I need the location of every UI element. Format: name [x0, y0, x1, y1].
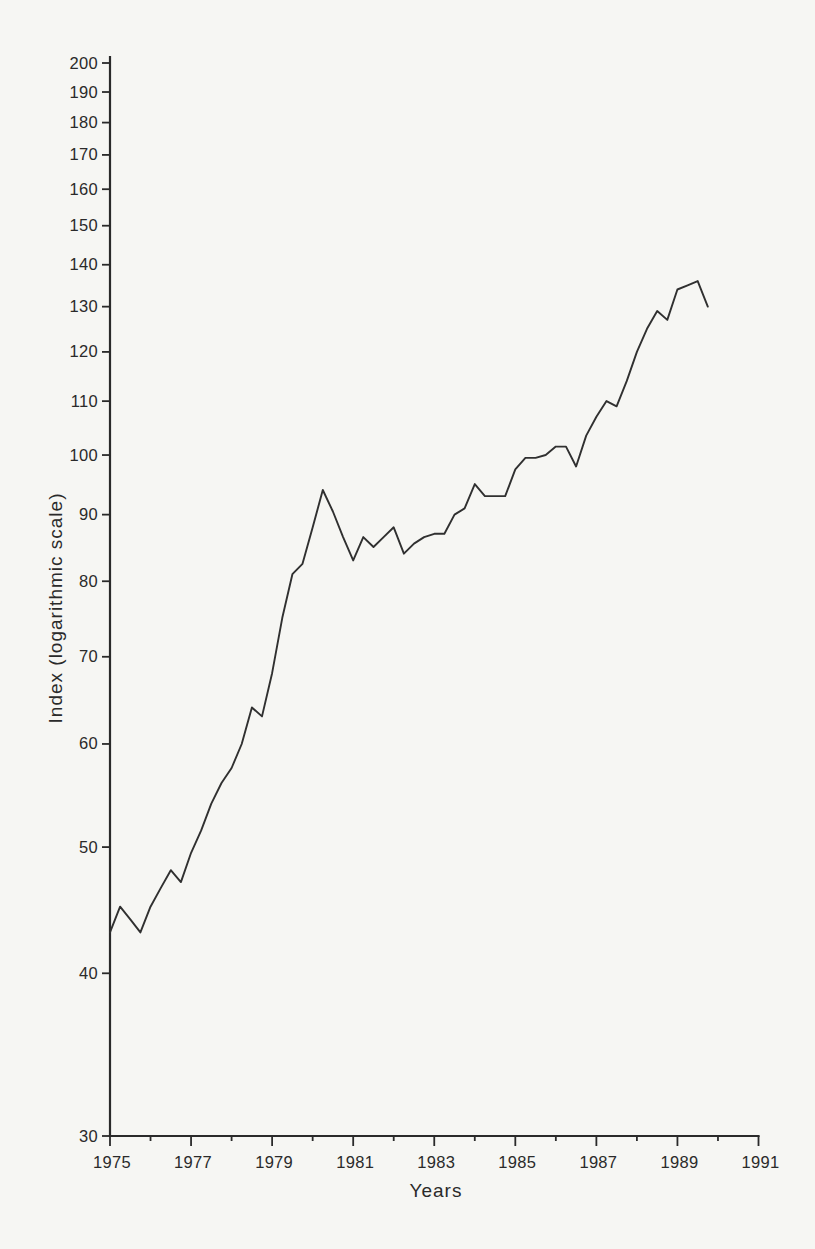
- x-tick-label: 1975: [93, 1153, 131, 1171]
- x-tick-label: 1987: [579, 1153, 617, 1171]
- y-tick-label: 120: [70, 342, 98, 360]
- y-tick-label: 70: [79, 647, 98, 665]
- y-tick-label: 160: [70, 180, 98, 198]
- scanned-chart-page: 3040506070809010011012013014015016017018…: [0, 0, 815, 1249]
- y-tick-label: 40: [79, 964, 98, 982]
- data-series: [110, 281, 708, 932]
- y-tick-label: 200: [70, 54, 98, 72]
- x-axis-title: Years: [410, 1180, 463, 1201]
- y-tick-label: 100: [70, 446, 98, 464]
- y-tick-label: 190: [70, 83, 98, 101]
- x-tick-label: 1985: [498, 1153, 536, 1171]
- y-tick-label: 60: [79, 734, 98, 752]
- y-tick-label: 110: [71, 392, 98, 410]
- y-tick-label: 140: [70, 255, 98, 273]
- y-tick-label: 50: [79, 838, 98, 856]
- x-tick-label: 1979: [255, 1153, 293, 1171]
- y-tick-label: 130: [70, 297, 98, 315]
- x-tick-label: 1983: [417, 1153, 455, 1171]
- x-tick-label: 1991: [742, 1153, 780, 1171]
- y-tick-label: 170: [70, 145, 98, 163]
- x-tick-label: 1977: [174, 1153, 212, 1171]
- y-axis-title: Index (logarithmic scale): [45, 493, 66, 724]
- plot-axes: 3040506070809010011012013014015016017018…: [70, 54, 780, 1172]
- y-tick-label: 80: [79, 572, 98, 590]
- index-series-line: [110, 281, 708, 932]
- y-tick-label: 180: [70, 113, 98, 131]
- line-chart: 3040506070809010011012013014015016017018…: [0, 0, 815, 1249]
- y-tick-label: 150: [70, 216, 98, 234]
- y-tick-label: 90: [79, 505, 98, 523]
- y-tick-label: 30: [79, 1127, 98, 1145]
- x-tick-label: 1989: [660, 1153, 698, 1171]
- x-tick-label: 1981: [336, 1153, 374, 1171]
